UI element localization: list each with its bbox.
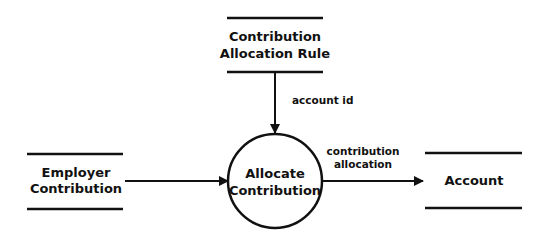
process-allocate-contribution[interactable]: Allocate Contribution xyxy=(228,134,322,228)
flow-label: account id xyxy=(292,94,354,106)
flow-label-line2: allocation xyxy=(334,158,392,170)
flow-label-line1: contribution xyxy=(326,145,399,157)
store-employer-contribution[interactable]: Employer Contribution xyxy=(27,154,123,209)
store-label-line1: Employer xyxy=(42,165,111,180)
store-label-line2: Contribution xyxy=(30,181,122,196)
process-label-line2: Contribution xyxy=(229,183,321,198)
flow-account-id[interactable]: account id xyxy=(275,72,354,133)
store-label-line2: Allocation Rule xyxy=(220,46,330,61)
process-label-line1: Allocate xyxy=(245,166,305,181)
process-circle xyxy=(228,134,322,228)
store-label: Account xyxy=(444,173,503,188)
flow-contribution-allocation[interactable]: contribution allocation xyxy=(322,145,423,181)
store-contribution-allocation-rule[interactable]: Contribution Allocation Rule xyxy=(220,18,330,72)
store-label-line1: Contribution xyxy=(229,29,321,44)
data-flow-diagram: Contribution Allocation Rule account id … xyxy=(0,0,549,241)
store-account[interactable]: Account xyxy=(425,153,522,208)
